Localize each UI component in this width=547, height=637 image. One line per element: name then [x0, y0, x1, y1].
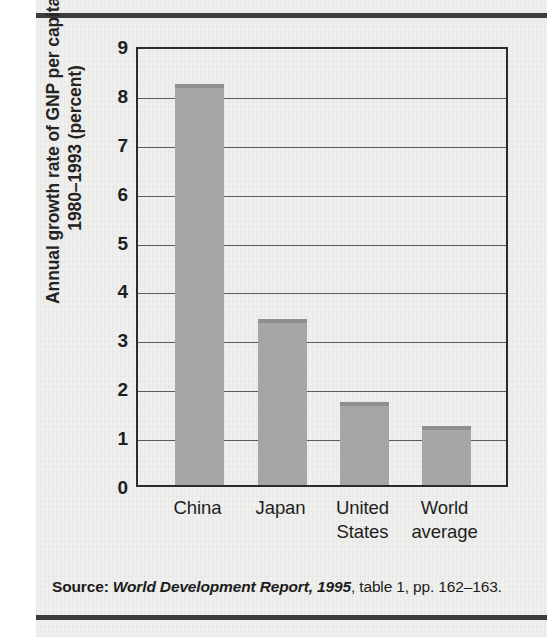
bottom-rule [36, 615, 547, 620]
y-axis-tick-labels: 0123456789 [96, 47, 128, 487]
y-tick-label-8: 8 [100, 86, 128, 105]
y-tick-label-2: 2 [100, 380, 128, 399]
source-note: Source: World Development Report, 1995, … [52, 578, 502, 596]
plot-inner [138, 49, 506, 485]
y-tick-label-3: 3 [100, 331, 128, 350]
y-tick-label-5: 5 [100, 233, 128, 252]
y-tick-label-4: 4 [100, 282, 128, 301]
y-tick-label-6: 6 [100, 184, 128, 203]
y-tick-label-1: 1 [100, 429, 128, 448]
bar-china [175, 84, 224, 485]
y-tick-label-9: 9 [100, 38, 128, 57]
source-publication-title: World Development Report, 1995 [113, 578, 351, 595]
plot-area [136, 47, 508, 487]
y-tick-label-7: 7 [100, 135, 128, 154]
y-tick-label-0: 0 [100, 478, 128, 497]
x-label-line: average [385, 520, 505, 544]
figure-panel: Annual growth rate of GNP per capita, 19… [0, 0, 547, 637]
x-axis-label-world-average: Worldaverage [385, 496, 505, 545]
top-rule [36, 13, 547, 18]
y-axis-title-line-1: Annual growth rate of GNP per capita, [42, 0, 64, 304]
x-label-line: World [385, 496, 505, 520]
y-axis-title: Annual growth rate of GNP per capita, 19… [38, 0, 90, 313]
x-axis-category-labels: ChinaJapanUnitedStatesWorldaverage [136, 496, 508, 556]
bar-world-average [422, 426, 471, 485]
source-citation-detail: , table 1, pp. 162–163. [351, 578, 502, 595]
bar-united-states [340, 402, 389, 485]
y-axis-title-line-2: 1980–1993 (percent) [64, 65, 86, 230]
bar-japan [258, 319, 307, 485]
source-label: Source: [52, 578, 109, 595]
